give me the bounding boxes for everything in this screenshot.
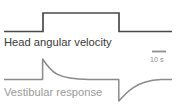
vestibular-response-figure: Head angular velocity Vestibular respons… bbox=[0, 0, 177, 111]
scale-bar-label: 10 s bbox=[150, 56, 164, 63]
head-angular-velocity-label: Head angular velocity bbox=[4, 37, 112, 48]
head-angular-velocity-trace bbox=[4, 13, 172, 32]
vestibular-response-label: Vestibular response bbox=[4, 87, 102, 98]
